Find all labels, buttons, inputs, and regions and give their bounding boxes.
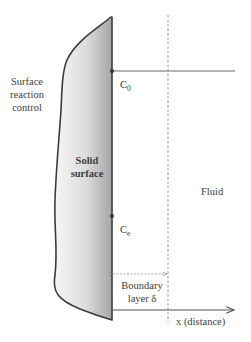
c0-point: [110, 69, 114, 73]
label-line: Boundary: [116, 279, 168, 292]
c0-label: C0: [120, 78, 131, 92]
ce-label: Ce: [120, 223, 130, 237]
surface-reaction-control-label: Surface reaction control: [4, 75, 50, 114]
ce-base: C: [120, 224, 127, 235]
label-line: layer δ: [116, 292, 168, 305]
label-line: reaction: [4, 88, 50, 101]
label-line: control: [4, 101, 50, 114]
label-line: Solid: [64, 154, 110, 167]
c0-subscript: 0: [127, 84, 131, 93]
label-line: Surface: [4, 75, 50, 88]
label-line: surface: [64, 167, 110, 180]
ce-point: [110, 214, 114, 218]
ce-subscript: e: [127, 229, 130, 238]
solid-surface-label: Solid surface: [64, 154, 110, 180]
x-axis-label: x (distance): [176, 315, 225, 328]
fluid-label: Fluid: [201, 185, 223, 198]
c0-base: C: [120, 79, 127, 90]
boundary-layer-label: Boundary layer δ: [116, 279, 168, 305]
